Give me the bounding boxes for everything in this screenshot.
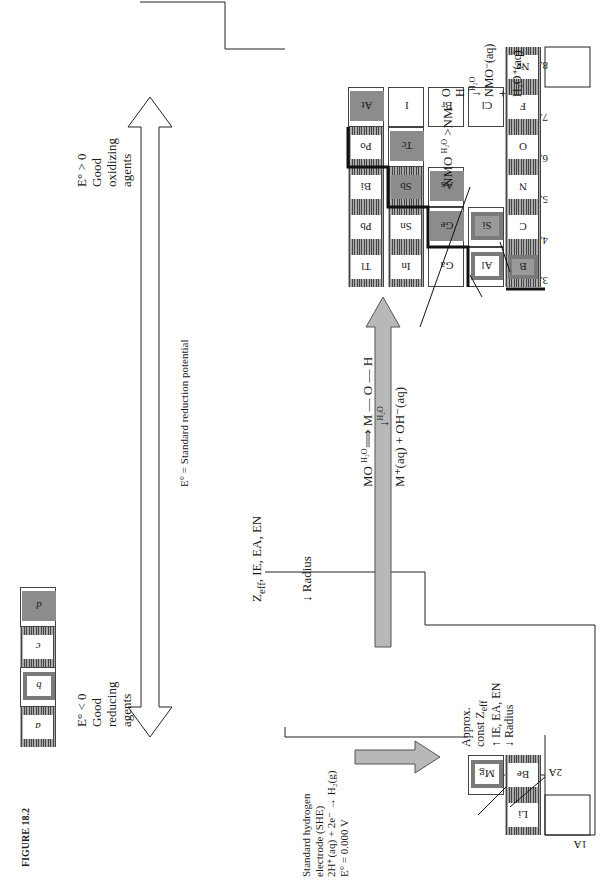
legend-c: c: [20, 627, 56, 667]
acidic-oxide-reaction: NMO H₂O >NM: [440, 108, 456, 187]
period-trend-up-label: Zeff, IE, EA, EN: [250, 516, 267, 602]
oxidizing-agents-note: E° > 0 Good oxidizing agents: [75, 138, 135, 187]
figure-18-2: 1A 2A 3A 4A 5A 6A 7A 8A Li Be Mg B C N O…: [0, 0, 606, 887]
reducing-agents-note: E° < 0 Good reducing agents: [75, 682, 135, 727]
legend-d: d: [20, 587, 56, 627]
she-note: Standard hydrogen electrode (SHE) 2H⁺(aq…: [300, 771, 351, 877]
legend-a: a: [20, 707, 56, 747]
legend: a b c d: [20, 587, 60, 747]
group-trend-label: Approx. const Zeff ↑ IE, EA, EN ↓ Radius: [460, 683, 517, 747]
figure-caption: FIGURE 18.2: [20, 808, 32, 867]
period-trend-down-label: ↓ Radius: [300, 556, 315, 602]
standard-reduction-potential-label: E° = Standard reduction potential: [178, 340, 191, 487]
basic-oxide-reaction: MO H₂O⟹ M — O — H ↓H₂O M⁺(aq) + OH⁻(aq): [360, 357, 407, 487]
legend-b: b: [20, 667, 56, 707]
metalloid-staircase-and-arrows: [0, 0, 606, 887]
acidic-oxide-chain: O H ↓H₂O NMO⁻(aq) + H₃O⁺(aq): [440, 44, 525, 97]
